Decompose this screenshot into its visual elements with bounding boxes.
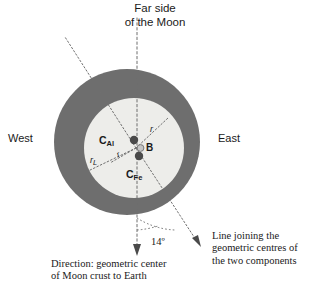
label-c-fe: CFe [126, 168, 142, 181]
label-c-al-subscript: Al [107, 139, 115, 148]
tilted-axis-arrowhead [192, 235, 201, 247]
marker-c-al [130, 136, 138, 144]
label-radius-upper-right: r [150, 124, 153, 135]
label-b-point: B [146, 142, 153, 154]
vertical-axis-arrowhead [133, 244, 141, 256]
marker-b [137, 145, 144, 152]
label-c-al: CAl [99, 134, 114, 147]
caption-direction-to-earth: Direction: geometric center of Moon crus… [51, 258, 166, 283]
title-far-side-of-the-moon: Far side of the Moon [0, 2, 310, 29]
angle-arc-outer [137, 218, 175, 230]
marker-c-fe [135, 152, 143, 160]
label-west: West [8, 132, 33, 145]
caption-line-joining-centres: Line joining the geometric centres of th… [212, 230, 298, 267]
label-c-fe-main: C [126, 168, 134, 180]
label-c-al-main: C [99, 134, 107, 146]
label-radius-lower-left-subscript: L [93, 158, 97, 167]
label-c-fe-subscript: Fe [134, 173, 143, 182]
label-east: East [218, 132, 240, 145]
moon-interior-circle [84, 98, 184, 198]
figure-canvas: Far side of the Moon West East CAl CFe B… [0, 0, 310, 297]
label-angle-14-degrees: 14º [151, 236, 165, 248]
label-radius-lower-left: rL [90, 155, 97, 166]
